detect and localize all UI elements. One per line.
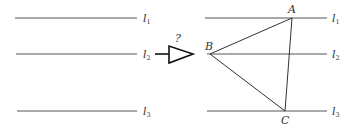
right-label-l3: l3	[332, 105, 340, 119]
left-label-l2: l2	[143, 48, 151, 62]
point-label-b: B	[204, 40, 213, 53]
left-label-l3: l3	[143, 105, 151, 119]
parallel-lines-triangle-diagram: l1 l2 l3 ? l1 l2 l3 A B C	[0, 0, 353, 129]
right-label-l1: l1	[332, 12, 340, 26]
left-panel: l1 l2 l3	[15, 12, 151, 119]
left-label-l1: l1	[143, 12, 151, 26]
transformation-arrow-icon: ?	[155, 32, 193, 63]
point-label-c: C	[281, 114, 290, 127]
point-label-a: A	[287, 3, 296, 16]
right-panel: l1 l2 l3 A B C	[204, 3, 340, 127]
question-mark: ?	[175, 32, 181, 45]
triangle-abc	[210, 18, 292, 111]
right-label-l2: l2	[332, 48, 340, 62]
